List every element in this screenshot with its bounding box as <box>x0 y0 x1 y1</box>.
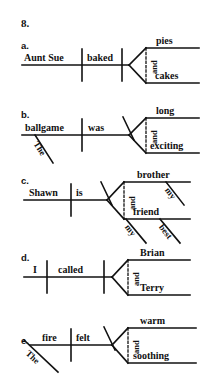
question-number: 8. <box>21 18 29 29</box>
verb-d: called <box>58 265 83 275</box>
item-letter-d: d. <box>21 253 29 263</box>
verb-a: baked <box>87 53 113 63</box>
object-d-1: Brian <box>140 248 164 258</box>
object-a-1: pies <box>156 36 173 46</box>
worksheet-page: 8. a. Aunt Sue baked pies cakes and b. b… <box>0 0 201 382</box>
subject-e: fire <box>42 333 57 343</box>
verb-e: felt <box>76 333 90 343</box>
conjunction-c: and <box>128 196 137 210</box>
object-d-2: Terry <box>140 283 164 293</box>
subject-c: Shawn <box>29 188 58 198</box>
subject-b: ballgame <box>25 123 64 133</box>
item-letter-a: a. <box>21 41 29 51</box>
item-letter-b: b. <box>21 110 29 120</box>
verb-c: is <box>76 188 83 198</box>
conjunction-d: and <box>132 272 141 286</box>
item-letter-e: e. <box>21 336 29 346</box>
subject-d: I <box>33 265 37 275</box>
conjunction-b: and <box>150 130 159 144</box>
complement-b-1: long <box>156 106 174 116</box>
conjunction-e: and <box>132 340 141 354</box>
item-letter-c: c. <box>21 176 29 186</box>
complement-e-1: warm <box>140 316 165 326</box>
complement-c-1: brother <box>137 170 170 180</box>
subject-a: Aunt Sue <box>24 53 64 63</box>
verb-b: was <box>88 123 104 133</box>
conjunction-a: and <box>150 60 159 74</box>
